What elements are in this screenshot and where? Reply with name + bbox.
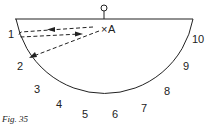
scale-label-4: 4 xyxy=(56,98,62,110)
scale-label-9: 9 xyxy=(183,60,189,72)
scale-label-2: 2 xyxy=(17,60,23,72)
pivot-knob-icon xyxy=(101,5,107,11)
dashed-path-a-to-2 xyxy=(31,31,99,57)
scale-label-6: 6 xyxy=(112,108,118,120)
scale-label-8: 8 xyxy=(164,85,170,97)
scale-label-3: 3 xyxy=(34,83,40,95)
scale-label-5: 5 xyxy=(82,108,88,120)
scale-label-10: 10 xyxy=(192,33,204,45)
point-label: A xyxy=(108,23,116,35)
scale-label-1: 1 xyxy=(8,28,14,40)
scale-label-7: 7 xyxy=(141,102,147,114)
dashed-paths xyxy=(19,27,99,57)
arrow-head-down-icon xyxy=(29,52,37,58)
dashed-path-a-to-1-and-back xyxy=(19,27,93,37)
pendulum-diagram: × A 1 2 3 4 5 6 7 8 9 10 Fig. 35 xyxy=(0,0,205,124)
arrow-head-right-icon xyxy=(75,32,83,37)
arrow-head-left-icon xyxy=(47,27,55,32)
figure-caption: Fig. 35 xyxy=(1,114,28,124)
point-marker: × xyxy=(101,23,107,35)
